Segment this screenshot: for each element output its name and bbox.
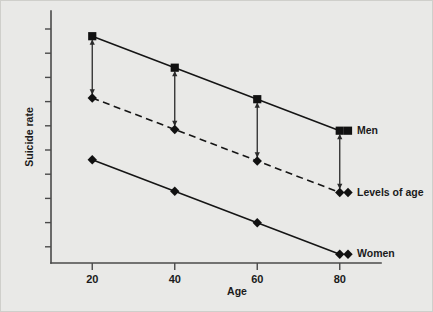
data-point-marker (253, 95, 261, 103)
y-axis-label: Suicide rate (23, 107, 35, 167)
x-axis-tick-label: 40 (169, 273, 181, 285)
x-axis-tick-labels: 20406080 (86, 273, 346, 285)
series-line (92, 160, 340, 255)
y-axis (45, 11, 51, 263)
data-point-marker (170, 186, 179, 195)
chart-figure: 20406080 Age Suicide rate MenLevels of a… (0, 0, 433, 312)
series-line (92, 98, 340, 193)
data-point-marker (88, 155, 97, 164)
level-gap-arrows (90, 39, 343, 189)
x-axis-ticks (92, 263, 340, 270)
data-point-marker (336, 127, 344, 135)
x-axis-tick-label: 60 (251, 273, 263, 285)
x-axis-tick-label: 80 (334, 273, 346, 285)
chart-canvas: 20406080 Age Suicide rate MenLevels of a… (1, 1, 433, 312)
y-axis-ticks (45, 29, 51, 247)
x-axis: 20406080 (51, 263, 381, 285)
data-point-marker (88, 93, 97, 102)
double-headed-arrow (337, 134, 342, 189)
data-point-marker (335, 249, 344, 258)
legend-label: Women (357, 247, 395, 259)
x-axis-tick-label: 20 (86, 273, 98, 285)
data-point-marker (335, 188, 344, 197)
data-point-marker (171, 64, 179, 72)
series-line (92, 36, 340, 131)
data-point-marker (253, 218, 262, 227)
legend-marker (343, 249, 352, 258)
x-axis-label: Age (227, 285, 247, 297)
data-point-marker (170, 125, 179, 134)
double-headed-arrow (90, 39, 95, 94)
series-inline-legend: MenLevels of ageWomen (343, 124, 423, 259)
legend-marker (343, 188, 352, 197)
legend-label: Levels of age (357, 186, 424, 198)
legend-label: Men (357, 124, 378, 136)
data-point-marker (253, 156, 262, 165)
double-headed-arrow (172, 71, 177, 126)
series-lines (92, 36, 343, 254)
data-point-marker (88, 32, 96, 40)
legend-marker (344, 127, 352, 135)
double-headed-arrow (255, 102, 260, 157)
